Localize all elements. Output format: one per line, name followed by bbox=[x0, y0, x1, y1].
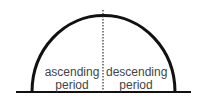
ascending-label: ascending period bbox=[44, 66, 100, 92]
ascending-label-line2: period bbox=[44, 79, 100, 92]
descending-label-line2: period bbox=[106, 79, 166, 92]
arc-diagram bbox=[0, 0, 203, 105]
descending-label: descending period bbox=[106, 66, 166, 92]
